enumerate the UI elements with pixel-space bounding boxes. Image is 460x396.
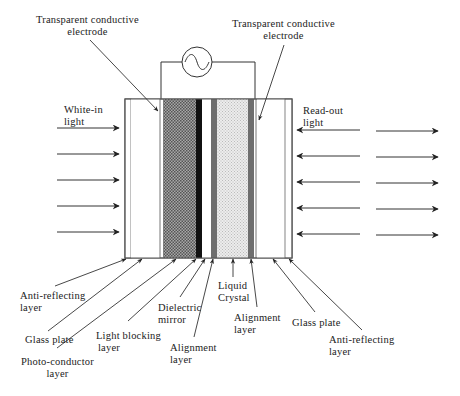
label-photo-conductor: Photo-conductor layer: [21, 356, 94, 380]
label-glass-plate-left: Glass plate: [25, 334, 74, 346]
anti-reflecting-layer-right: [285, 99, 292, 258]
label-white-in-light: White-in light: [64, 104, 103, 128]
label-alignment-right: Alignment layer: [234, 312, 281, 336]
label-anti-reflecting-left: Anti-reflecting layer: [20, 290, 85, 314]
glass-plate-left: [131, 99, 160, 258]
white-in-light-arrows: [57, 128, 119, 232]
dielectric-mirror: [202, 99, 211, 258]
label-read-out-light: Read-out light: [303, 105, 343, 129]
label-liquid-crystal: Liquid Crystal: [218, 280, 250, 304]
label-anti-reflecting-right: Anti-reflecting layer: [329, 334, 394, 358]
layer-stack: [125, 99, 292, 258]
anti-reflecting-layer-left: [125, 99, 131, 258]
glass-plate-right: [257, 99, 285, 258]
label-electrode-left: Transparent conductive electrode: [36, 14, 139, 38]
label-light-blocking: Light blocking layer: [96, 330, 161, 354]
label-alignment-left: Alignment layer: [170, 342, 217, 366]
alignment-layer-right: [248, 99, 254, 258]
ac-source-circuit: [161, 47, 255, 99]
read-out-light-arrows-out: [376, 131, 438, 235]
liquid-crystal: [217, 99, 248, 258]
label-dielectric-mirror: Dielectric mirror: [158, 302, 201, 326]
read-out-light-arrows-in: [297, 130, 360, 234]
photo-conductor-layer: [163, 99, 196, 258]
light-blocking-layer: [196, 99, 202, 258]
label-glass-plate-right: Glass plate: [292, 317, 341, 329]
label-electrode-right: Transparent conductive electrode: [232, 18, 335, 42]
alignment-layer-left: [211, 99, 217, 258]
